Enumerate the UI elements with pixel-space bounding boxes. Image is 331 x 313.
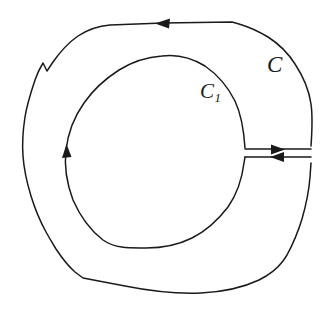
contour-diagram-figure: C C1	[0, 0, 331, 313]
inner-left-arrow-icon	[62, 144, 72, 158]
outer-contour-label: C	[267, 53, 282, 76]
outer-top-arrow-icon	[155, 19, 170, 29]
inner-contour-label-base: C	[200, 79, 214, 103]
contour-diagram-canvas	[0, 0, 331, 313]
inner-contour-label: C1	[200, 81, 221, 104]
inner-contour-label-subscript: 1	[214, 90, 221, 105]
